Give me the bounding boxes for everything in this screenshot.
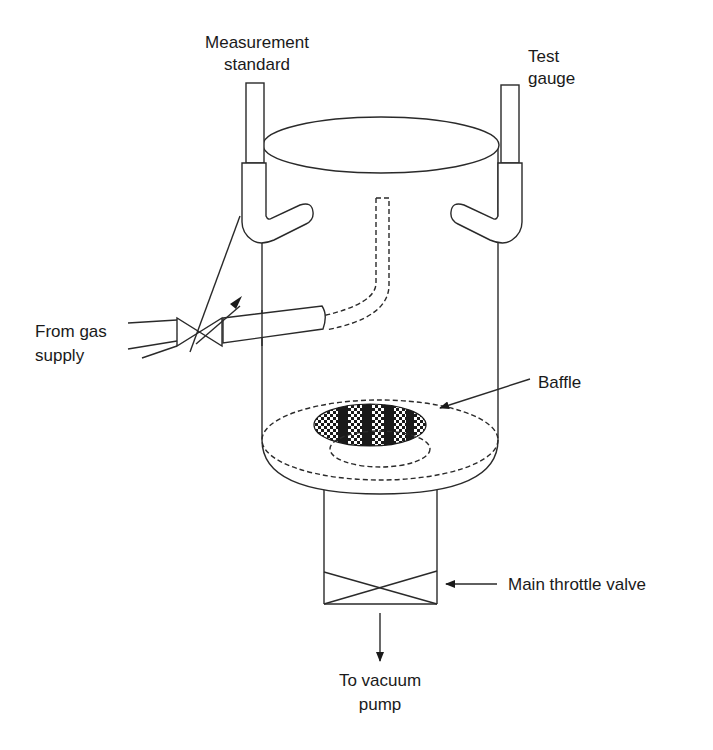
gas-inlet-tube-body — [223, 306, 325, 343]
label-vacuum-pump-line2: pump — [359, 695, 402, 714]
label-test-gauge-line1: Test — [528, 47, 559, 66]
label-gas-supply-line2: supply — [35, 346, 85, 365]
valve-adjust-arrow-icon — [230, 296, 242, 309]
label-throttle-valve: Main throttle valve — [508, 575, 646, 594]
gas-inlet-tube — [223, 306, 325, 346]
test-gauge-elbow — [451, 163, 522, 243]
label-gas-supply-line1: From gas — [35, 322, 107, 341]
internal-gas-tube-outer — [326, 198, 389, 330]
internal-gas-tube-inner — [322, 198, 376, 316]
measurement-standard-elbow — [242, 163, 313, 243]
gas-supply-line-upper — [128, 320, 177, 323]
measurement-standard-tube — [246, 83, 264, 163]
label-measurement-standard-line2: standard — [224, 55, 290, 74]
gas-supply-line-extra — [142, 346, 177, 358]
baffle-pointer-arrow-icon — [440, 379, 530, 408]
main-throttle-valve — [324, 571, 497, 604]
label-vacuum-pump-line1: To vacuum — [339, 671, 421, 690]
chamber-top-lid — [263, 117, 499, 173]
test-gauge-tube — [501, 85, 519, 163]
diagram-canvas: Measurement standard Test gauge From gas… — [0, 0, 713, 750]
label-test-gauge-line2: gauge — [528, 69, 575, 88]
label-baffle: Baffle — [538, 373, 581, 392]
label-measurement-standard-line1: Measurement — [205, 33, 309, 52]
